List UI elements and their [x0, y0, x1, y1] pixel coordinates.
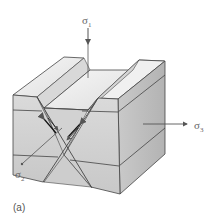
sigma1-label: σ1	[82, 14, 92, 29]
panel-label: (a)	[13, 202, 25, 213]
front-face	[13, 95, 120, 194]
fault-block-diagram: σ1 σ3 σ2 (a)	[0, 0, 220, 221]
sigma3-label: σ3	[194, 119, 204, 134]
